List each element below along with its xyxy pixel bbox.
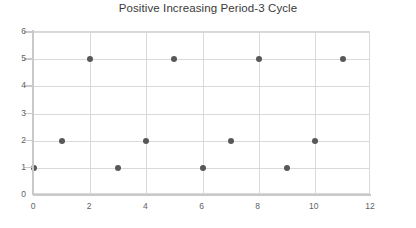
data-point — [284, 165, 290, 171]
data-point — [87, 56, 93, 62]
data-point — [143, 138, 149, 144]
x-axis-tick-label: 4 — [130, 202, 160, 211]
data-point — [115, 165, 121, 171]
plot-area — [33, 31, 370, 194]
x-axis-tick-label: 2 — [74, 202, 104, 211]
y-axis-tick-label: 4 — [2, 81, 26, 90]
y-axis-tick-label: 2 — [2, 136, 26, 145]
y-axis-tick-label: 6 — [2, 27, 26, 36]
x-axis-tick-label: 10 — [299, 202, 329, 211]
data-point — [200, 165, 206, 171]
x-axis-tick-label: 12 — [355, 202, 385, 211]
chart-figure: Positive Increasing Period-3 Cycle 01234… — [0, 0, 416, 228]
y-axis-tick-label: 1 — [2, 163, 26, 172]
x-axis-line — [33, 194, 371, 196]
data-point — [228, 138, 234, 144]
data-point — [312, 138, 318, 144]
y-axis-tick-label: 0 — [2, 190, 26, 199]
x-axis-tick-label: 6 — [187, 202, 217, 211]
y-axis-line — [32, 30, 34, 195]
data-point — [59, 138, 65, 144]
scatter-series — [34, 32, 369, 193]
y-axis-tick-label: 3 — [2, 109, 26, 118]
x-axis-tick-label: 0 — [18, 202, 48, 211]
x-axis-tick-label: 8 — [243, 202, 273, 211]
data-point — [256, 56, 262, 62]
y-axis-tick-label: 5 — [2, 54, 26, 63]
data-point — [171, 56, 177, 62]
chart-title: Positive Increasing Period-3 Cycle — [0, 2, 416, 14]
data-point — [340, 56, 346, 62]
